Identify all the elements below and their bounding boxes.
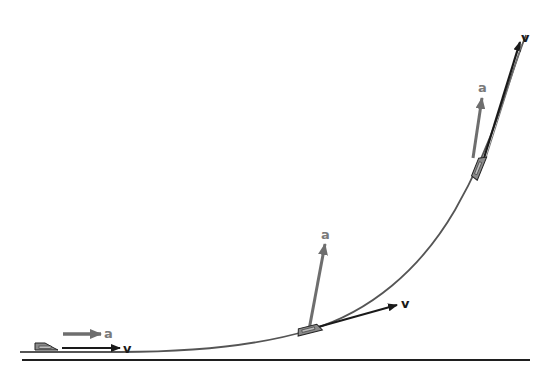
acceleration-arrow-end bbox=[473, 98, 482, 158]
acceleration-label-middle: a bbox=[321, 227, 330, 242]
velocity-label-middle: v bbox=[401, 296, 410, 311]
acceleration-label-end: a bbox=[478, 80, 487, 95]
velocity-arrow-end bbox=[484, 42, 520, 158]
velocity-label-start: v bbox=[123, 341, 132, 356]
trajectory-path bbox=[20, 35, 526, 352]
velocity-arrow-middle bbox=[318, 305, 397, 327]
acceleration-arrow-middle bbox=[309, 244, 325, 330]
position-middle: a v bbox=[296, 227, 410, 336]
motion-diagram: v a a v a v bbox=[0, 0, 549, 374]
velocity-label-end: v bbox=[521, 30, 530, 45]
position-end: a v bbox=[471, 30, 530, 180]
acceleration-label-start: a bbox=[104, 326, 113, 341]
velocity-arrow-end-shadow bbox=[486, 44, 522, 158]
